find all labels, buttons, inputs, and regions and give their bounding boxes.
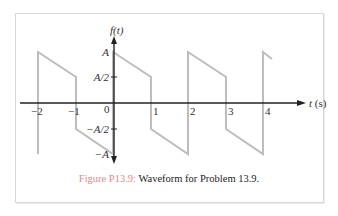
x-tick-label: 4 — [265, 105, 271, 117]
y-tick-label-A: A — [101, 46, 109, 58]
x-tick-label: 0 — [104, 103, 110, 115]
y-tick-label-neg-A-half: −A/2 — [86, 123, 109, 135]
y-tick-label-A-half: A/2 — [93, 71, 110, 83]
y-tick-label-neg-A: −A — [95, 148, 109, 160]
y-axis-arrow-up-icon — [111, 36, 117, 44]
caption-text: Waveform for Problem 13.9. — [136, 173, 259, 184]
x-tick-label: −1 — [68, 105, 80, 117]
x-axis-arrow-icon — [297, 100, 306, 106]
y-axis-arrow-down-icon — [111, 156, 117, 164]
x-tick-label: 3 — [228, 105, 234, 117]
caption-label: Figure P13.9: — [79, 173, 136, 184]
y-axis-label: f(t) — [110, 24, 124, 37]
x-axis-label: t (s) — [309, 97, 327, 110]
figure-caption: Figure P13.9: Waveform for Problem 13.9. — [0, 173, 338, 184]
x-tick-label: 1 — [153, 105, 159, 117]
x-tick-label: −2 — [31, 105, 43, 117]
x-tick-label: 2 — [190, 105, 196, 117]
